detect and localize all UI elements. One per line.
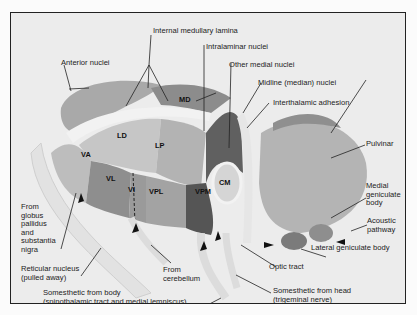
label-from-cerebellum: From cerebellum: [163, 266, 200, 283]
thalamus-illustration: [11, 13, 406, 304]
label-intralaminar-nuclei: Intralaminar nuclei: [206, 43, 268, 52]
nucleus-ld-label: LD: [117, 131, 127, 140]
label-anterior-nuclei: Anterior nuclei: [61, 59, 110, 68]
label-optic-tract: Optic tract: [269, 263, 304, 272]
label-interthalamic-adhesion: Interthalamic adhesion: [273, 99, 349, 108]
nucleus-md-label: MD: [179, 95, 191, 104]
label-acoustic-pathway: Acoustic pathway: [367, 217, 396, 234]
diagram-frame: MD LD LP VA VL VI VPL VPM CM Internal me…: [10, 12, 406, 304]
nucleus-va-label: VA: [81, 150, 91, 159]
label-other-medial-nuclei: Other medial nuclei: [229, 61, 294, 70]
label-lateral-geniculate-body: Lateral geniculate body: [311, 244, 390, 253]
nucleus-lp-label: LP: [155, 141, 164, 150]
label-somesthetic-body: Somesthetic from body (spinothalamic tra…: [43, 289, 187, 304]
label-internal-medullary-lamina: Internal medullary lamina: [153, 27, 238, 36]
nucleus-vi-label: VI: [128, 185, 135, 194]
nucleus-vpl-label: VPL: [149, 187, 163, 196]
label-pulvinar: Pulvinar: [366, 140, 393, 149]
label-from-globus-pallidus: From globus pallidus and substantia nigr…: [21, 203, 56, 255]
nucleus-vl-label: VL: [106, 174, 115, 183]
nucleus-vpm-label: VPM: [195, 187, 211, 196]
nucleus-cm-label: CM: [219, 178, 231, 187]
label-medial-geniculate-body: Medial geniculate body: [366, 182, 401, 208]
label-midline-nuclei: Midline (median) nuclei: [258, 79, 336, 88]
label-somesthetic-head: Somesthetic from head (trigeminal nerve): [273, 287, 351, 304]
label-reticular-nucleus: Reticular nucleus (pulled away): [21, 265, 79, 282]
